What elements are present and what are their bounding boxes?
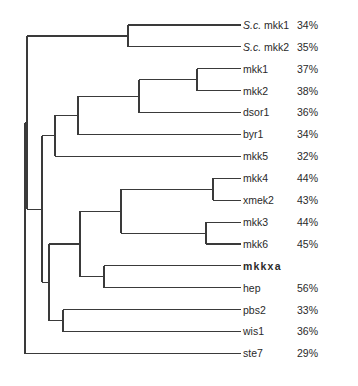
identity-percentages: 34%35%37%38%36%34%32%44%43%44%45%56%33%3… bbox=[297, 19, 318, 360]
gene-name: mkk1 bbox=[264, 19, 289, 31]
leaf-label-mkk4: mkk4 bbox=[243, 172, 268, 184]
leaf-label-mkk6: mkk6 bbox=[243, 238, 268, 250]
identity-hep: 56% bbox=[297, 282, 318, 294]
identity-ste7: 29% bbox=[297, 347, 318, 359]
phylogenetic-tree: S.c. mkk1S.c. mkk2mkk1mkk2dsor1byr1mkk5m… bbox=[0, 0, 358, 386]
leaf-label-dsor1: dsor1 bbox=[243, 106, 269, 118]
leaf-label-wis1: wis1 bbox=[242, 325, 264, 337]
identity-mkk5: 32% bbox=[297, 150, 318, 162]
identity-scmkk1: 34% bbox=[297, 19, 318, 31]
leaf-labels: S.c. mkk1S.c. mkk2mkk1mkk2dsor1byr1mkk5m… bbox=[242, 19, 289, 360]
identity-mkk4: 44% bbox=[297, 172, 318, 184]
leaf-label-mkk3: mkk3 bbox=[243, 216, 268, 228]
species-prefix: S.c. bbox=[243, 19, 264, 31]
identity-mkk3: 44% bbox=[297, 216, 318, 228]
leaf-label-hep: hep bbox=[243, 282, 261, 294]
identity-scmkk2: 35% bbox=[297, 41, 318, 53]
identity-dsor1: 36% bbox=[297, 106, 318, 118]
species-prefix: S.c. bbox=[243, 41, 264, 53]
leaf-label-mkk2: mkk2 bbox=[243, 85, 268, 97]
gene-name: mkk2 bbox=[264, 41, 289, 53]
leaf-label-ste7: ste7 bbox=[243, 347, 263, 359]
leaf-label-scmkk1: S.c. mkk1 bbox=[243, 19, 289, 31]
tree-branches bbox=[25, 25, 241, 354]
identity-xmek2: 43% bbox=[297, 194, 318, 206]
identity-mkk1: 37% bbox=[297, 63, 318, 75]
identity-pbs2: 33% bbox=[297, 304, 318, 316]
identity-byr1: 34% bbox=[297, 128, 318, 140]
leaf-label-byr1: byr1 bbox=[243, 128, 264, 140]
leaf-label-mkkxa: mkkxa bbox=[243, 260, 282, 272]
leaf-label-xmek2: xmek2 bbox=[243, 194, 274, 206]
leaf-label-pbs2: pbs2 bbox=[243, 304, 266, 316]
leaf-label-mkk5: mkk5 bbox=[243, 150, 268, 162]
leaf-label-scmkk2: S.c. mkk2 bbox=[243, 41, 289, 53]
leaf-label-mkk1: mkk1 bbox=[243, 63, 268, 75]
identity-mkk2: 38% bbox=[297, 85, 318, 97]
identity-wis1: 36% bbox=[297, 325, 318, 337]
identity-mkk6: 45% bbox=[297, 238, 318, 250]
